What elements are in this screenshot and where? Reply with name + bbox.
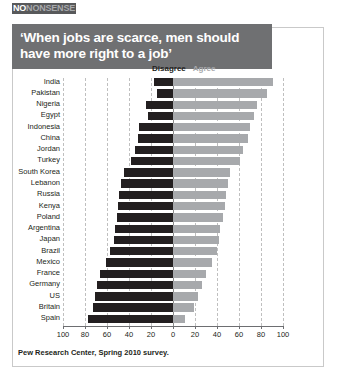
bar-agree <box>173 225 220 233</box>
chart-legend: Disagree Agree <box>152 64 215 73</box>
x-tick-mark <box>129 326 130 329</box>
bar-disagree <box>157 89 174 97</box>
category-label: Indonesia <box>0 123 60 131</box>
bar-rows <box>63 78 283 326</box>
x-tick-mark <box>283 326 284 329</box>
bar-disagree <box>117 213 173 221</box>
bar-disagree <box>100 270 173 278</box>
bar-row <box>63 157 283 165</box>
x-tick-label: 20 <box>147 330 155 339</box>
x-tick-mark <box>239 326 240 329</box>
category-label: Pakistan <box>0 89 60 97</box>
bar-agree <box>173 134 248 142</box>
bar-row <box>63 270 283 278</box>
category-label: Turkey <box>0 156 60 164</box>
bar-disagree <box>119 191 173 199</box>
bar-row <box>63 89 283 97</box>
bar-agree <box>173 179 228 187</box>
x-tick-label: 80 <box>81 330 89 339</box>
x-tick-label: 60 <box>103 330 111 339</box>
logo-text-nonsense: NONSENSE <box>26 3 75 14</box>
category-label: China <box>0 134 60 142</box>
bar-agree <box>173 89 267 97</box>
bar-agree <box>173 247 217 255</box>
category-label: Britain <box>0 303 60 311</box>
bar-row <box>63 134 283 142</box>
masthead-logo: NONONSENSE <box>12 3 76 14</box>
bar-agree <box>173 281 202 289</box>
bar-agree <box>173 303 194 311</box>
page-title-line-2: have more right to a job’ <box>20 46 264 62</box>
legend-item-agree: Agree <box>193 64 216 73</box>
source-note: Pew Research Center, Spring 2010 survey. <box>18 348 169 357</box>
bar-row <box>63 247 283 255</box>
bar-agree <box>173 292 198 300</box>
bar-agree <box>173 258 212 266</box>
category-label: Germany <box>0 280 60 288</box>
bar-disagree <box>135 146 174 154</box>
bar-row <box>63 303 283 311</box>
bar-row <box>63 213 283 221</box>
category-label: Japan <box>0 235 60 243</box>
gridline <box>283 78 285 326</box>
bar-disagree <box>110 247 173 255</box>
category-label: Russia <box>0 190 60 198</box>
bar-disagree <box>115 225 173 233</box>
bar-row <box>63 146 283 154</box>
bar-disagree <box>154 78 173 86</box>
bar-agree <box>173 315 185 323</box>
bar-agree <box>173 236 219 244</box>
x-tick-label: 40 <box>125 330 133 339</box>
bar-agree <box>173 191 226 199</box>
bar-disagree <box>118 202 173 210</box>
category-label: South Korea <box>0 168 60 176</box>
bar-agree <box>173 78 273 86</box>
figure-page: NONONSENSE ‘When jobs are scarce, men sh… <box>0 0 340 375</box>
bar-row <box>63 191 283 199</box>
x-tick-mark <box>151 326 152 329</box>
legend-item-disagree: Disagree <box>152 64 186 73</box>
chart-plot-area <box>63 78 283 326</box>
chart-title-banner: ‘When jobs are scarce, men should have m… <box>12 24 272 69</box>
bar-disagree <box>124 168 174 176</box>
bar-agree <box>173 123 250 131</box>
bar-row <box>63 179 283 187</box>
x-tick-label: 60 <box>235 330 243 339</box>
bar-row <box>63 258 283 266</box>
x-tick-label: 80 <box>257 330 265 339</box>
bar-disagree <box>106 258 173 266</box>
bar-row <box>63 315 283 323</box>
category-label: Argentina <box>0 224 60 232</box>
bar-row <box>63 292 283 300</box>
x-tick-mark <box>217 326 218 329</box>
x-tick-mark <box>173 326 174 329</box>
bar-disagree <box>88 315 173 323</box>
bar-row <box>63 123 283 131</box>
category-label: Brazil <box>0 247 60 255</box>
category-label: Egypt <box>0 111 60 119</box>
bar-row <box>63 202 283 210</box>
logo-text-no: NO <box>13 3 26 14</box>
category-label: Lebanon <box>0 179 60 187</box>
bar-row <box>63 112 283 120</box>
category-label: France <box>0 269 60 277</box>
bar-disagree <box>148 112 173 120</box>
bar-row <box>63 101 283 109</box>
bar-row <box>63 225 283 233</box>
category-label: Poland <box>0 213 60 221</box>
bar-disagree <box>138 134 173 142</box>
bar-disagree <box>131 157 173 165</box>
bar-row <box>63 281 283 289</box>
bar-agree <box>173 168 230 176</box>
category-axis-labels: IndiaPakistanNigeriaEgyptIndonesiaChinaJ… <box>0 78 60 326</box>
x-tick-label: 0 <box>171 330 175 339</box>
category-label: US <box>0 292 60 300</box>
bar-disagree <box>95 292 173 300</box>
x-tick-label: 100 <box>57 330 70 339</box>
x-tick-mark <box>107 326 108 329</box>
x-tick-mark <box>195 326 196 329</box>
x-tick-label: 20 <box>191 330 199 339</box>
category-label: Jordan <box>0 145 60 153</box>
x-tick-label: 100 <box>277 330 290 339</box>
bar-disagree <box>146 101 174 109</box>
